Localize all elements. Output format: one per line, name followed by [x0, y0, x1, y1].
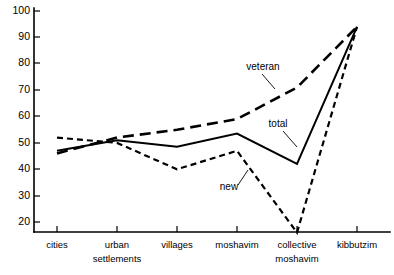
y-tick-label-80: 80 [18, 56, 30, 68]
y-tick-label-100: 100 [12, 4, 30, 16]
leader-line-veteran [262, 74, 275, 89]
annotation-total: total [269, 118, 297, 147]
chart-canvas: 100 90 80 70 60 50 40 30 20 [0, 0, 394, 275]
x-tick-label-villages: villages [161, 239, 193, 250]
x-axis: cities urban settlements villages moshav… [34, 226, 390, 264]
x-tick-label-collective-moshavim-line2: moshavim [275, 253, 318, 264]
line-chart: 100 90 80 70 60 50 40 30 20 [0, 0, 394, 275]
x-axis-ticks [57, 226, 357, 232]
series-label-total: total [269, 118, 288, 129]
y-tick-label-20: 20 [18, 215, 30, 227]
x-tick-label-moshavim: moshavim [215, 239, 258, 250]
y-axis-ticks [34, 11, 40, 222]
x-tick-label-urban-settlements-line2: settlements [93, 253, 142, 264]
series-line-total [57, 27, 357, 164]
x-tick-label-cities: cities [46, 239, 68, 250]
series-line-veteran [57, 27, 357, 154]
leader-line-new [238, 170, 248, 185]
y-tick-label-90: 90 [18, 30, 30, 42]
leader-line-total [283, 131, 297, 147]
y-tick-label-70: 70 [18, 83, 30, 95]
y-tick-label-30: 30 [18, 189, 30, 201]
series-label-new: new [220, 181, 239, 192]
y-tick-label-60: 60 [18, 109, 30, 121]
x-tick-label-kibbutzim: kibbutzim [337, 239, 377, 250]
y-axis: 100 90 80 70 60 50 40 30 20 [12, 4, 40, 232]
series-label-veteran: veteran [246, 61, 279, 72]
x-tick-label-collective-moshavim-line1: collective [277, 239, 316, 250]
y-tick-label-50: 50 [18, 136, 30, 148]
x-axis-tick-labels: cities urban settlements villages moshav… [46, 239, 377, 264]
series-group [57, 27, 357, 233]
x-tick-label-urban-settlements-line1: urban [105, 239, 129, 250]
y-tick-label-40: 40 [18, 162, 30, 174]
y-axis-tick-labels: 100 90 80 70 60 50 40 30 20 [12, 4, 30, 227]
annotation-new: new [220, 170, 248, 192]
annotation-veteran: veteran [246, 61, 279, 89]
